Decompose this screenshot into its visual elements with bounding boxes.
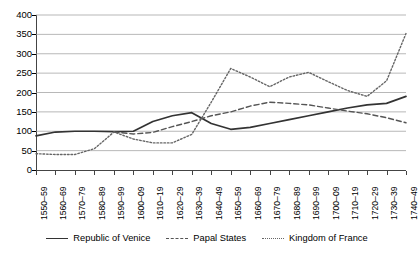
x-tick-mark — [309, 171, 310, 175]
y-tick-mark — [32, 151, 36, 152]
legend-swatch-dotted-icon — [262, 235, 284, 242]
y-tick-label: 50 — [2, 146, 32, 156]
x-tick-label: 1560–69 — [59, 187, 68, 220]
y-tick-mark — [32, 131, 36, 132]
x-tick-label: 1640–49 — [215, 187, 224, 220]
legend-label: Kingdom of France — [289, 234, 368, 243]
x-tick-label: 1730–39 — [390, 187, 399, 220]
x-tick-label: 1670–79 — [273, 187, 282, 220]
x-tick-mark — [406, 171, 407, 175]
x-tick-mark — [94, 171, 95, 175]
x-tick-mark — [231, 171, 232, 175]
x-tick-mark — [153, 171, 154, 175]
series-line — [36, 96, 406, 136]
x-tick-mark — [211, 171, 212, 175]
x-tick-label: 1680–89 — [293, 187, 302, 220]
y-tick-label: 100 — [2, 126, 32, 136]
x-tick-mark — [367, 171, 368, 175]
x-tick-mark — [133, 171, 134, 175]
series-line — [114, 102, 406, 134]
y-tick-label: 250 — [2, 68, 32, 78]
x-tick-mark — [250, 171, 251, 175]
x-tick-label: 1580–89 — [98, 187, 107, 220]
legend-label: Papal States — [193, 234, 246, 243]
x-tick-mark — [192, 171, 193, 175]
x-tick-mark — [75, 171, 76, 175]
y-tick-mark — [32, 54, 36, 55]
x-tick-label: 1600–09 — [137, 187, 146, 220]
y-tick-mark — [32, 15, 36, 16]
plot-svg — [36, 15, 406, 170]
x-tick-mark — [36, 171, 37, 175]
x-tick-mark — [289, 171, 290, 175]
y-tick-mark — [32, 73, 36, 74]
y-tick-label: 350 — [2, 29, 32, 39]
x-tick-mark — [328, 171, 329, 175]
x-tick-mark — [387, 171, 388, 175]
x-tick-label: 1710–19 — [351, 187, 360, 220]
y-tick-mark — [32, 93, 36, 94]
legend-swatch-dashed-icon — [166, 235, 188, 242]
x-axis-line — [36, 170, 406, 171]
y-tick-label: 300 — [2, 49, 32, 59]
y-tick-mark — [32, 112, 36, 113]
series-line — [36, 34, 406, 155]
y-tick-label: 200 — [2, 88, 32, 98]
x-tick-label: 1550–59 — [40, 187, 49, 220]
x-tick-label: 1570–79 — [78, 187, 87, 220]
legend-swatch-solid-icon — [46, 235, 68, 242]
x-tick-mark — [55, 171, 56, 175]
y-tick-label: 0 — [2, 165, 32, 175]
x-tick-label: 1620–29 — [176, 187, 185, 220]
legend-item-republic-of-venice[interactable]: Republic of Venice — [46, 234, 150, 243]
x-tick-mark — [172, 171, 173, 175]
x-tick-label: 1700–09 — [332, 187, 341, 220]
x-tick-label: 1650–59 — [234, 187, 243, 220]
x-tick-label: 1590–99 — [117, 187, 126, 220]
y-tick-label: 150 — [2, 107, 32, 117]
x-tick-label: 1660–69 — [254, 187, 263, 220]
legend-item-papal-states[interactable]: Papal States — [166, 234, 246, 243]
x-axis: 1550–591560–691570–791580–891590–991600–… — [0, 176, 414, 222]
plot-area — [36, 15, 406, 170]
y-tick-label: 400 — [2, 10, 32, 20]
x-tick-label: 1720–29 — [371, 187, 380, 220]
x-tick-label: 1630–39 — [195, 187, 204, 220]
y-tick-mark — [32, 34, 36, 35]
chart-legend: Republic of Venice Papal States Kingdom … — [0, 228, 414, 250]
legend-label: Republic of Venice — [73, 234, 150, 243]
x-tick-mark — [348, 171, 349, 175]
x-tick-label: 1740–49 — [410, 187, 419, 220]
x-tick-label: 1610–19 — [156, 187, 165, 220]
legend-item-kingdom-of-france[interactable]: Kingdom of France — [262, 234, 368, 243]
x-tick-label: 1690–99 — [312, 187, 321, 220]
x-tick-mark — [270, 171, 271, 175]
x-tick-mark — [114, 171, 115, 175]
